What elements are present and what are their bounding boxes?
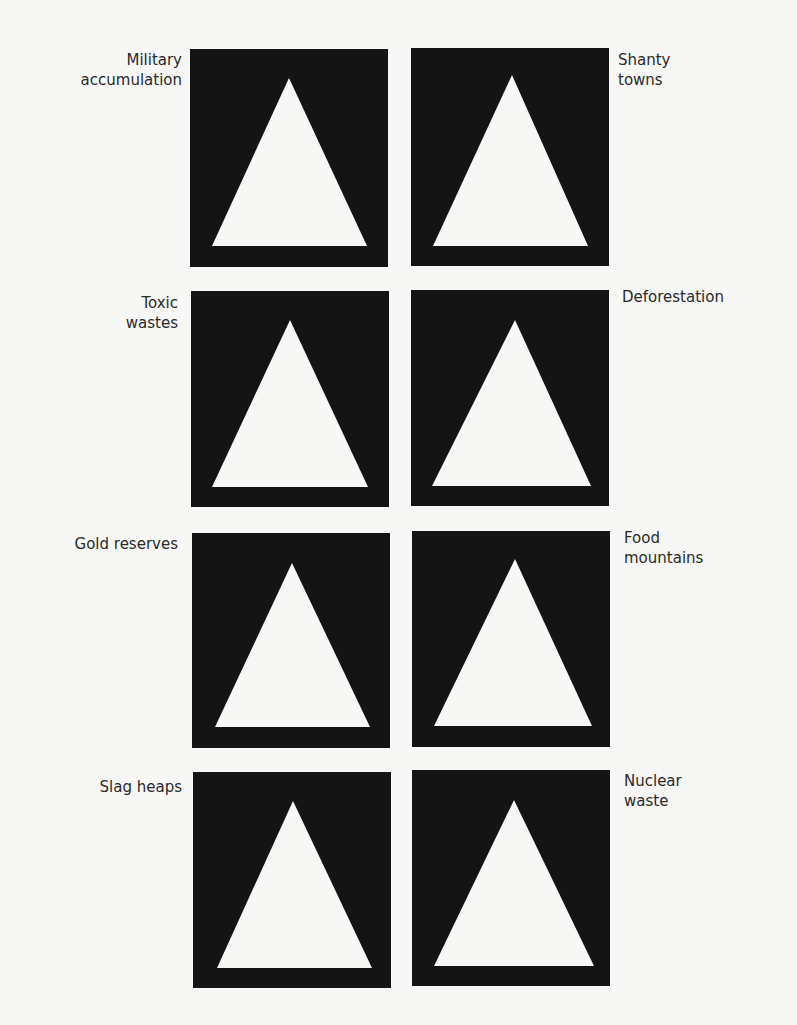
panel-shanty-towns xyxy=(411,48,609,266)
triangle-icon xyxy=(412,770,610,986)
panel-slag-heaps xyxy=(193,772,391,988)
triangle-grid-figure: Military accumulation Shanty towns Toxic… xyxy=(0,0,797,1025)
triangle-icon xyxy=(412,531,610,747)
triangle-icon xyxy=(191,291,389,507)
label-deforestation: Deforestation xyxy=(622,287,724,307)
label-nuclear-waste: Nuclear waste xyxy=(624,771,682,811)
panel-gold-reserves xyxy=(192,533,390,748)
label-gold-reserves: Gold reserves xyxy=(75,534,178,554)
label-toxic-wastes: Toxic wastes xyxy=(126,293,178,333)
triangle-icon xyxy=(190,49,388,267)
panel-food-mountains xyxy=(412,531,610,747)
panel-military-accumulation xyxy=(190,49,388,267)
triangle-icon xyxy=(193,772,391,988)
label-military-accumulation: Military accumulation xyxy=(81,50,182,90)
panel-deforestation xyxy=(411,290,609,506)
label-slag-heaps: Slag heaps xyxy=(100,777,182,797)
label-food-mountains: Food mountains xyxy=(624,528,703,568)
triangle-icon xyxy=(411,48,609,266)
panel-nuclear-waste xyxy=(412,770,610,986)
triangle-icon xyxy=(192,533,390,748)
label-shanty-towns: Shanty towns xyxy=(618,50,671,90)
triangle-icon xyxy=(411,290,609,506)
panel-toxic-wastes xyxy=(191,291,389,507)
